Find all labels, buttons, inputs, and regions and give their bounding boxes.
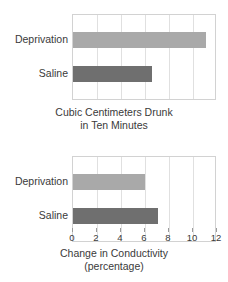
x-axis-title-bottom-line1: Change in Conductivity [60, 247, 168, 259]
x-axis-tick-label: 6 [141, 232, 146, 243]
x-axis-tick-label: 2 [93, 232, 98, 243]
x-axis-title-bottom: Change in Conductivity (percentage) [0, 247, 228, 273]
category-label-top-deprivation: Deprivation [2, 33, 68, 45]
x-axis-tick-label: 12 [211, 232, 222, 243]
gridline [97, 157, 98, 241]
x-axis-title-bottom-line2: (percentage) [0, 260, 228, 273]
plot-area-top [72, 14, 216, 100]
gridline [97, 15, 98, 99]
gridline [193, 157, 194, 241]
x-axis-title-top: Cubic Centimeters Drunk in Ten Minutes [0, 106, 228, 132]
x-axis-title-top-line2: in Ten Minutes [0, 119, 228, 132]
gridline [121, 157, 122, 241]
gridline [169, 15, 170, 99]
x-axis-tick-label: 0 [69, 232, 74, 243]
x-axis-tick-label: 8 [165, 232, 170, 243]
chart-panel-top: Deprivation Saline Cubic Centimeters Dru… [0, 0, 228, 141]
x-axis-title-top-line1: Cubic Centimeters Drunk [55, 106, 172, 118]
gridline [145, 15, 146, 99]
x-axis-tick-label: 10 [187, 232, 198, 243]
gridlines-top [73, 15, 215, 99]
gridline [169, 157, 170, 241]
gridline [121, 15, 122, 99]
gridline [193, 15, 194, 99]
gridline [145, 157, 146, 241]
bar-top-saline [73, 66, 152, 82]
category-label-bottom-deprivation: Deprivation [2, 175, 68, 187]
figure: Deprivation Saline Cubic Centimeters Dru… [0, 0, 228, 282]
bar-bottom-deprivation [73, 174, 145, 190]
category-label-bottom-saline: Saline [2, 209, 68, 221]
x-axis-ticks-bottom: 024681012 [72, 232, 216, 244]
category-label-top-saline: Saline [2, 67, 68, 79]
bar-bottom-saline [73, 208, 158, 224]
bar-top-deprivation [73, 32, 206, 48]
x-axis-tick-label: 4 [117, 232, 122, 243]
